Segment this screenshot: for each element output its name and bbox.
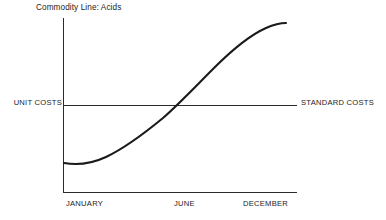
unit-costs-curve [64, 23, 286, 164]
line-chart-canvas [0, 0, 386, 220]
chart-title: Commodity Line: Acids [36, 3, 121, 12]
x-axis-tick-june: JUNE [174, 199, 195, 208]
y-axis-label-unit-costs: UNIT COSTS [0, 98, 62, 107]
reference-line-label-standard-costs: STANDARD COSTS [301, 98, 374, 107]
x-axis-tick-january: JANUARY [66, 199, 103, 208]
chart-figure: Commodity Line: Acids UNIT COSTS STANDAR… [0, 0, 386, 220]
x-axis-tick-december: DECEMBER [243, 199, 288, 208]
